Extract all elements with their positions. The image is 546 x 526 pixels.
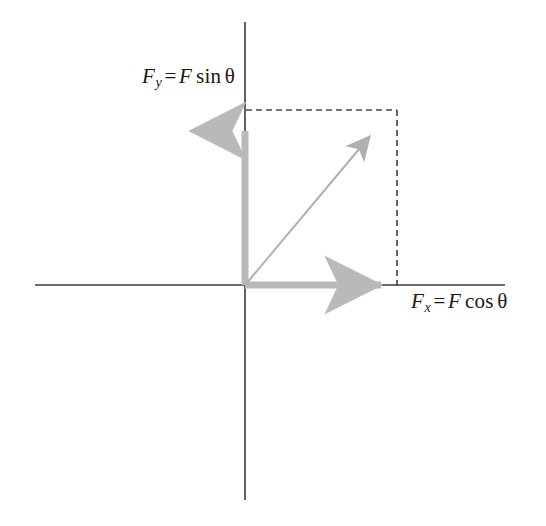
x-component-label: Fx=Fcosθ <box>411 289 507 316</box>
y-label-magnitude: F <box>179 64 192 88</box>
x-label-subscript: x <box>424 299 431 315</box>
vector-diagram-figure: Fy=Fsinθ Fx=Fcosθ <box>0 0 546 526</box>
x-label-symbol: F <box>411 289 424 313</box>
y-component-label: Fy=Fsinθ <box>142 64 235 91</box>
y-label-angle: θ <box>225 64 235 88</box>
y-label-function: sin <box>196 64 221 88</box>
x-label-magnitude: F <box>448 289 461 313</box>
x-label-function: cos <box>465 289 494 313</box>
x-label-equals: = <box>433 289 445 313</box>
vector-diagram-canvas <box>0 0 546 526</box>
x-label-angle: θ <box>497 289 507 313</box>
resultant-force-vector <box>246 136 370 284</box>
y-label-symbol: F <box>142 64 155 88</box>
y-label-equals: = <box>164 64 176 88</box>
y-label-subscript: y <box>155 74 162 90</box>
